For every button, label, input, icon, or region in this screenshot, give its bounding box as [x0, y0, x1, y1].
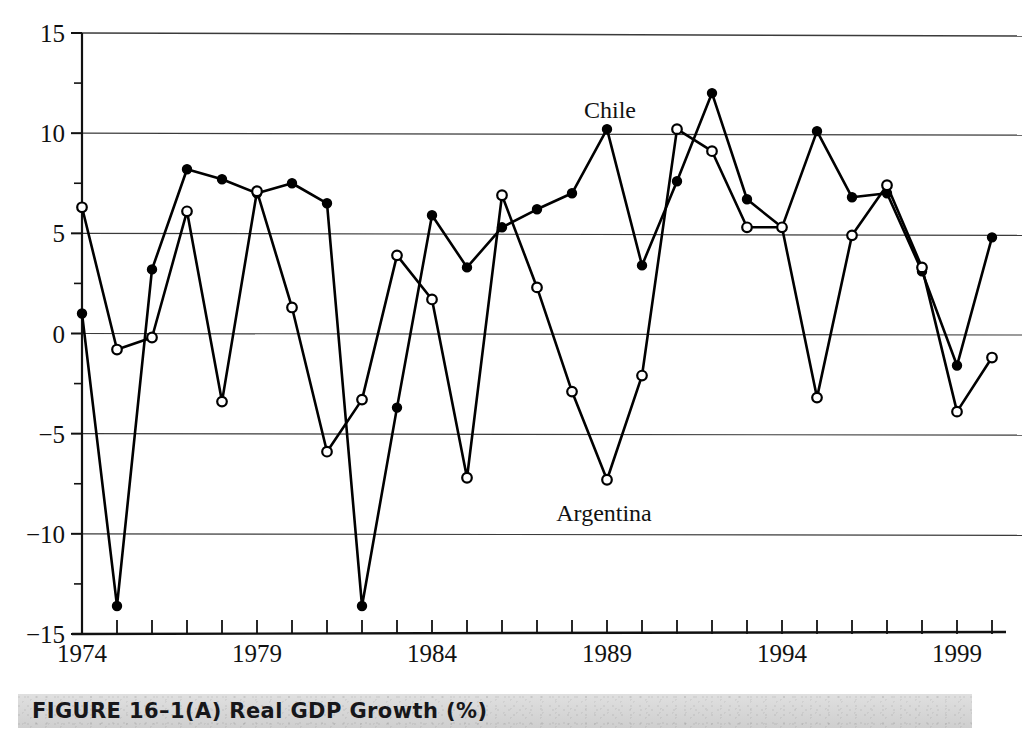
data-point-chile [288, 179, 297, 188]
figure-caption-bar: FIGURE 16–1(A) Real GDP Growth (%) [18, 694, 972, 728]
data-point-chile [183, 165, 192, 174]
x-tick-label: 1979 [232, 640, 282, 667]
data-point-argentina [777, 223, 787, 233]
data-point-chile [498, 223, 507, 232]
argentina-series-label: Argentina [556, 500, 652, 526]
data-point-argentina [462, 473, 472, 483]
data-point-argentina [952, 407, 962, 417]
data-point-chile [78, 309, 87, 318]
data-point-chile [148, 265, 157, 274]
x-tick-label: 1989 [582, 640, 632, 667]
chile-series-label: Chile [584, 97, 636, 123]
data-point-argentina [742, 223, 752, 233]
data-point-argentina [217, 397, 227, 407]
data-point-chile [358, 602, 367, 611]
data-point-chile [323, 199, 332, 208]
x-tick-labels: 197419791984198919941999 [57, 640, 982, 667]
data-point-chile [603, 125, 612, 134]
y-tick-label: −5 [38, 421, 65, 448]
data-point-argentina [707, 146, 717, 156]
y-tick-label: 10 [40, 120, 65, 147]
x-tick-label: 1994 [757, 640, 808, 667]
line-chart-svg: −15−10−5051015 197419791984198919941999 … [0, 0, 1030, 690]
data-point-argentina [252, 186, 262, 196]
data-point-chile [638, 261, 647, 270]
data-point-argentina [147, 333, 157, 343]
figure-caption-text: FIGURE 16–1(A) Real GDP Growth (%) [18, 699, 487, 723]
data-point-chile [813, 127, 822, 136]
series-markers-group [77, 89, 997, 611]
data-point-argentina [77, 202, 87, 212]
data-point-chile [708, 89, 717, 98]
x-axis [72, 620, 1006, 634]
data-point-argentina [567, 387, 577, 397]
data-point-chile [533, 205, 542, 214]
x-axis-spine [72, 632, 1006, 634]
data-point-chile [393, 403, 402, 412]
series-lines-group [82, 93, 992, 606]
chart-plot-area: −15−10−5051015 197419791984198919941999 … [0, 0, 1030, 690]
gridlines-group [82, 33, 1022, 535]
data-point-chile [218, 175, 227, 184]
data-point-argentina [532, 283, 542, 293]
data-point-argentina [812, 393, 822, 403]
data-point-chile [428, 211, 437, 220]
gridline [82, 133, 1022, 135]
figure-root: −15−10−5051015 197419791984198919941999 … [0, 0, 1030, 732]
x-tick-label: 1984 [407, 640, 458, 667]
y-axis [71, 33, 82, 634]
series-line-chile [82, 93, 992, 606]
data-point-argentina [322, 447, 332, 457]
gridline [82, 434, 1022, 436]
series-annotations-group: ChileArgentina [556, 97, 652, 526]
data-point-argentina [672, 124, 682, 134]
gridline [82, 534, 1022, 536]
data-point-argentina [882, 180, 892, 190]
data-point-argentina [182, 207, 192, 217]
data-point-chile [673, 177, 682, 186]
data-point-chile [113, 602, 122, 611]
data-point-argentina [427, 295, 437, 305]
data-point-argentina [497, 190, 507, 200]
data-point-argentina [392, 251, 402, 261]
data-point-chile [568, 189, 577, 198]
data-point-argentina [847, 231, 857, 241]
gridline [82, 233, 1022, 235]
data-point-chile [988, 233, 997, 242]
data-point-argentina [357, 395, 367, 405]
y-tick-labels: −15−10−5051015 [26, 20, 65, 648]
data-point-argentina [602, 475, 612, 485]
data-point-argentina [987, 353, 997, 363]
y-tick-label: 0 [53, 321, 66, 348]
y-tick-label: −10 [26, 521, 65, 548]
data-point-chile [463, 263, 472, 272]
y-tick-label: 5 [53, 220, 66, 247]
x-tick-label: 1999 [932, 640, 982, 667]
data-point-argentina [637, 371, 647, 381]
data-point-argentina [917, 263, 927, 273]
x-tick-label: 1974 [57, 640, 108, 667]
data-point-chile [848, 193, 857, 202]
gridline [82, 33, 1022, 36]
data-point-argentina [287, 303, 297, 313]
data-point-chile [953, 361, 962, 370]
data-point-argentina [112, 345, 122, 355]
data-point-chile [743, 195, 752, 204]
y-tick-label: 15 [40, 20, 65, 47]
